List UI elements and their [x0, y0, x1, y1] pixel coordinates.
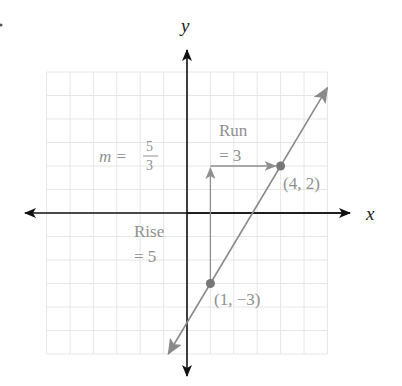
- point-4-2: [276, 162, 285, 171]
- point-label-4-2: (4, 2): [283, 174, 320, 193]
- line-upper-arrow: [246, 88, 328, 225]
- point-label-1-neg3: (1, −3): [214, 290, 260, 309]
- slope-numerator: 5: [146, 139, 153, 154]
- rise-label-value: = 5: [134, 247, 156, 266]
- coordinate-plane: y x (4, 2) (1, −3) m = 5 3 Run = 3 Rise …: [0, 0, 402, 386]
- stray-dot: [0, 24, 3, 27]
- x-axis-label: x: [365, 203, 375, 224]
- run-label-value: = 3: [219, 146, 241, 165]
- slope-denominator: 3: [146, 158, 153, 173]
- y-axis-label: y: [179, 15, 190, 36]
- point-1-neg3: [206, 279, 215, 288]
- slope-label-prefix: m =: [99, 147, 127, 166]
- slope-diagram: y x (4, 2) (1, −3) m = 5 3 Run = 3 Rise …: [0, 0, 402, 386]
- rise-label-word: Rise: [134, 222, 164, 241]
- run-label-word: Run: [219, 121, 248, 140]
